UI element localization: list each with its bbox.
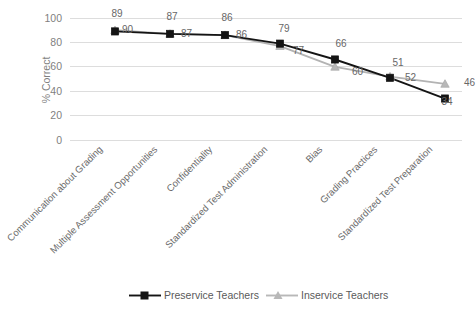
square-marker-preservice-1 — [166, 30, 173, 37]
data-label-inservice-2: 86 — [236, 29, 248, 40]
y-tick-label-100: 100 — [44, 12, 62, 24]
square-marker-preservice-0 — [111, 28, 118, 35]
data-label-inservice-4: 60 — [352, 66, 364, 77]
y-tick-label-40: 40 — [50, 85, 62, 97]
chart-background — [0, 0, 476, 313]
data-label-preservice-3: 79 — [278, 23, 290, 34]
chart-canvas: 020406080100 % Correct Communication abo… — [0, 0, 476, 313]
data-label-preservice-4: 66 — [335, 38, 347, 49]
data-label-preservice-1: 87 — [166, 11, 178, 22]
data-label-preservice-0: 89 — [111, 8, 123, 19]
chart-legend: Preservice Teachers Inservice Teachers — [129, 289, 388, 301]
square-marker-preservice-5 — [386, 74, 393, 81]
data-label-inservice-6: 46 — [464, 77, 476, 88]
square-marker-preservice-3 — [276, 40, 283, 47]
square-marker-preservice-2 — [221, 31, 228, 38]
square-marker-preservice-4 — [331, 56, 338, 63]
square-marker-icon — [141, 292, 149, 300]
data-label-preservice-2: 86 — [221, 12, 233, 23]
data-label-inservice-3: 77 — [293, 45, 305, 56]
data-label-inservice-0: 90 — [122, 24, 134, 35]
y-tick-label-60: 60 — [50, 60, 62, 72]
data-label-preservice-5: 51 — [392, 57, 404, 68]
y-tick-label-20: 20 — [50, 109, 62, 121]
data-label-inservice-5: 52 — [405, 72, 417, 83]
legend-label-inservice: Inservice Teachers — [301, 289, 388, 301]
data-label-inservice-1: 87 — [181, 28, 193, 39]
data-label-preservice-6: 34 — [441, 96, 453, 107]
legend-label-preservice: Preservice Teachers — [164, 289, 259, 301]
y-tick-label-0: 0 — [56, 134, 62, 146]
y-tick-label-80: 80 — [50, 36, 62, 48]
y-axis-title: % Correct — [40, 57, 52, 104]
line-chart: 020406080100 % Correct Communication abo… — [0, 0, 476, 313]
